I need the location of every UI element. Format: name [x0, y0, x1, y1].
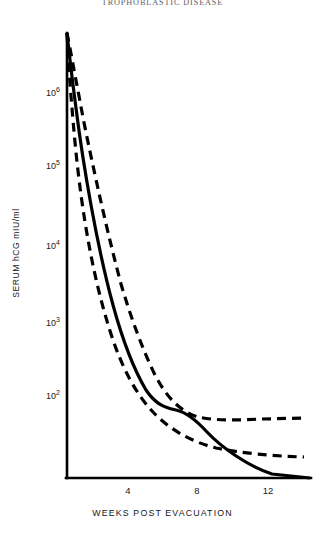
- y-tick-1e2: 102: [20, 391, 60, 401]
- figure-container: TROPHOBLASTIC DISEASE 106 105 104 103 10…: [0, 0, 325, 538]
- chart-plot: [0, 0, 325, 538]
- y-tick-1e3: 103: [20, 318, 60, 328]
- x-tick-4: 4: [118, 485, 138, 496]
- curve-lower-confidence-limit: [67, 33, 304, 457]
- y-tick-1e6: 106: [20, 88, 60, 98]
- y-axis-title: SERUM hCG mIU/ml: [11, 188, 21, 318]
- y-tick-1e4: 104: [20, 241, 60, 251]
- x-tick-8: 8: [187, 485, 207, 496]
- curve-upper-confidence-limit: [67, 33, 304, 420]
- curve-mean-regression: [67, 33, 310, 478]
- x-tick-12: 12: [258, 485, 278, 496]
- y-tick-1e5: 105: [20, 161, 60, 171]
- x-axis-title: WEEKS POST EVACUATION: [0, 508, 325, 518]
- axis-lines: [66, 33, 311, 478]
